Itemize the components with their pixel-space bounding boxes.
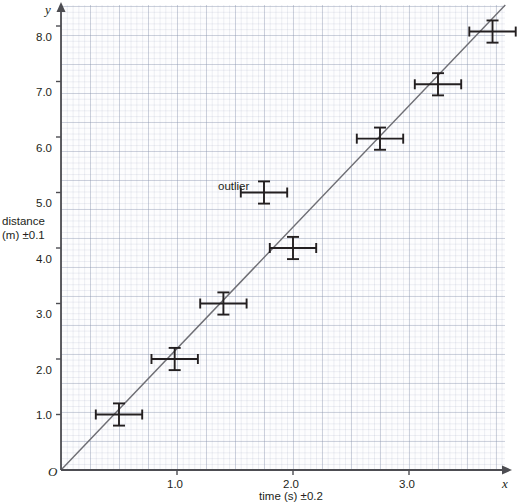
origin-label: O — [48, 464, 57, 480]
x-axis-arrow-icon — [502, 466, 512, 475]
y-axis-arrow-icon — [57, 2, 66, 12]
y-axis-title-line1: distance — [2, 214, 45, 228]
y-tick-label-2: 2.0 — [18, 364, 52, 376]
y-axis-title-line2: (m) ±0.1 — [2, 228, 45, 242]
x-axis-letter: x — [502, 476, 508, 492]
x-axis-title: time (s) ±0.2 — [231, 489, 351, 503]
data-point-7 — [469, 20, 515, 42]
x-tick-label-1: 1.0 — [155, 478, 195, 490]
tick-marks — [56, 26, 409, 475]
data-point-4 — [270, 237, 316, 259]
data-point-5 — [357, 128, 403, 150]
data-point-0 — [96, 403, 142, 425]
y-axis-letter: y — [45, 2, 51, 18]
y-tick-label-4: 4.0 — [18, 253, 52, 265]
x-tick-label-3: 3.0 — [387, 478, 427, 490]
data-point-1 — [151, 348, 197, 370]
data-point-2 — [200, 292, 246, 314]
y-tick-label-8: 8.0 — [18, 31, 52, 43]
y-axis-title: distance (m) ±0.1 — [2, 214, 45, 242]
y-tick-label-5: 5.0 — [18, 197, 52, 209]
y-tick-label-7: 7.0 — [18, 86, 52, 98]
y-tick-label-3: 3.0 — [18, 308, 52, 320]
chart-graphics — [0, 0, 518, 504]
outlier-annotation: outlier — [218, 180, 249, 192]
y-tick-label-6: 6.0 — [18, 142, 52, 154]
y-tick-label-1: 1.0 — [18, 409, 52, 421]
chart-canvas: 8.0 7.0 6.0 5.0 4.0 3.0 2.0 1.0 1.0 2.0 … — [0, 0, 518, 504]
